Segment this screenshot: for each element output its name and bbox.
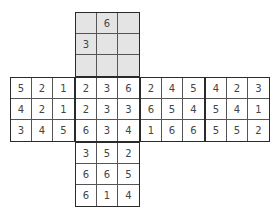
- grid-cell: 5: [206, 120, 227, 141]
- grid-cell: 1: [53, 78, 74, 99]
- grid-cell: 4: [11, 99, 32, 120]
- face-back: 423541552: [205, 77, 270, 142]
- grid-cell: 5: [206, 99, 227, 120]
- grid-cell: [97, 55, 118, 76]
- grid-cell: 2: [141, 78, 162, 99]
- grid-cell: 5: [11, 78, 32, 99]
- grid-cell: 5: [97, 143, 118, 164]
- grid-cell: 6: [141, 99, 162, 120]
- grid-cell: 3: [97, 120, 118, 141]
- grid-cell: 1: [53, 99, 74, 120]
- grid-cell: 3: [11, 120, 32, 141]
- grid-cell: 1: [97, 185, 118, 206]
- grid-cell: 6: [76, 164, 97, 185]
- grid-cell: 3: [248, 78, 269, 99]
- grid-cell: [118, 13, 139, 34]
- grid-cell: 4: [227, 99, 248, 120]
- grid-cell: 4: [183, 99, 204, 120]
- grid-cell: 1: [248, 99, 269, 120]
- grid-cell: 4: [118, 185, 139, 206]
- grid-cell: [97, 34, 118, 55]
- grid-cell: 6: [97, 164, 118, 185]
- grid-cell: 5: [183, 78, 204, 99]
- grid-cell: [76, 13, 97, 34]
- grid-cell: 3: [118, 99, 139, 120]
- grid-cell: 6: [118, 78, 139, 99]
- grid-cell: 2: [32, 99, 53, 120]
- grid-cell: 6: [97, 13, 118, 34]
- grid-cell: 3: [97, 78, 118, 99]
- cube-net: 6352142134523623363424565416642354155235…: [0, 0, 275, 219]
- grid-cell: 6: [76, 185, 97, 206]
- grid-cell: 2: [76, 78, 97, 99]
- grid-cell: 4: [206, 78, 227, 99]
- grid-cell: 5: [227, 120, 248, 141]
- grid-cell: 5: [162, 99, 183, 120]
- grid-cell: 2: [227, 78, 248, 99]
- grid-cell: 3: [76, 34, 97, 55]
- grid-cell: 4: [32, 120, 53, 141]
- grid-cell: 2: [248, 120, 269, 141]
- grid-cell: 2: [32, 78, 53, 99]
- grid-cell: 3: [76, 143, 97, 164]
- grid-cell: 1: [141, 120, 162, 141]
- grid-cell: [118, 55, 139, 76]
- face-front: 236233634: [75, 77, 140, 142]
- grid-cell: 3: [97, 99, 118, 120]
- grid-cell: [118, 34, 139, 55]
- grid-cell: 6: [162, 120, 183, 141]
- grid-cell: 6: [183, 120, 204, 141]
- grid-cell: 5: [118, 164, 139, 185]
- face-bottom: 352665614: [75, 142, 140, 207]
- grid-cell: 2: [118, 143, 139, 164]
- face-right: 245654166: [140, 77, 205, 142]
- face-top: 63: [75, 12, 140, 77]
- grid-cell: 4: [118, 120, 139, 141]
- grid-cell: [76, 55, 97, 76]
- face-left: 521421345: [10, 77, 75, 142]
- grid-cell: 2: [76, 99, 97, 120]
- grid-cell: 5: [53, 120, 74, 141]
- grid-cell: 6: [76, 120, 97, 141]
- grid-cell: 4: [162, 78, 183, 99]
